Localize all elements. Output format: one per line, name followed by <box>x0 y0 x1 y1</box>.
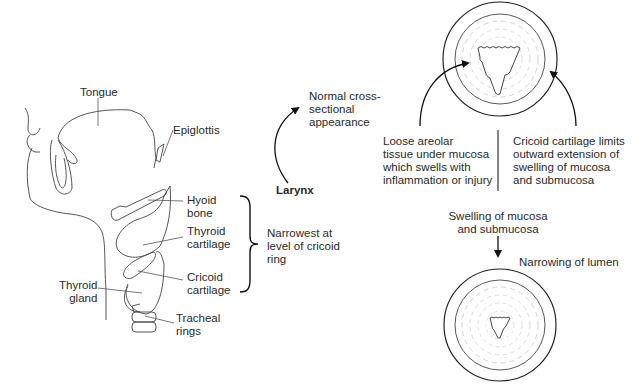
label-loose-areolar-tissue: Loose areolar tissue under mucosa which … <box>383 135 492 187</box>
label-epiglottis: Epiglottis <box>173 124 220 137</box>
label-narrowing-lumen: Narrowing of lumen <box>519 256 619 269</box>
label-tracheal-rings: Tracheal rings <box>176 312 220 338</box>
label-tongue: Tongue <box>80 86 118 99</box>
label-thyroid-gland: Thyroid gland <box>59 279 97 305</box>
cross-section-swollen <box>444 269 556 381</box>
head-neck-illustration <box>25 108 171 332</box>
label-cricoid-cartilage: Cricoid cartilage <box>187 271 230 297</box>
cross-section-normal <box>443 2 557 116</box>
bracket-brace <box>240 196 258 292</box>
label-thyroid-cartilage: Thyroid cartilage <box>187 225 230 251</box>
label-cricoid-limits: Cricoid cartilage limits outward extensi… <box>513 135 625 187</box>
label-larynx: Larynx <box>276 184 314 197</box>
larynx-arrow <box>275 108 298 183</box>
diagram-artwork <box>0 0 641 389</box>
arrow-cricoid-limit <box>551 72 576 126</box>
label-normal-cross-section: Normal cross- sectional appearance <box>309 90 381 129</box>
label-swelling-mucosa: Swelling of mucosa and submucosa <box>448 210 548 236</box>
arrow-loose-tissue <box>420 63 468 126</box>
label-narrowest-note: Narrowest at level of cricoid ring <box>267 227 340 266</box>
label-hyoid-bone: Hyoid bone <box>187 194 216 220</box>
